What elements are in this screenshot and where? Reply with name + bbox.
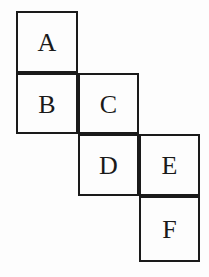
net-cell-label-d: D (99, 153, 118, 179)
net-cell-f: F (139, 196, 200, 262)
net-cell-label-b: B (38, 92, 55, 118)
net-cell-label-f: F (162, 217, 176, 243)
net-cell-c: C (78, 73, 139, 134)
net-cell-label-a: A (38, 30, 57, 56)
net-cell-a: A (16, 11, 78, 73)
net-cell-label-c: C (100, 92, 117, 118)
net-cell-d: D (78, 134, 139, 196)
cube-net-diagram: A B C D E F (0, 0, 209, 277)
net-cell-label-e: E (162, 153, 178, 179)
net-cell-e: E (139, 134, 200, 196)
net-cell-b: B (16, 73, 78, 134)
